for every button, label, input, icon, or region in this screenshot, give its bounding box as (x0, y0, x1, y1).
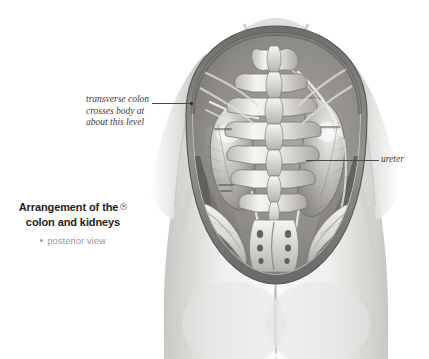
posterior-torso-kidneys-illustration (148, 6, 429, 359)
leader-line-transverse-colon (152, 103, 191, 104)
figure-subtitle-text: posterior view (47, 235, 106, 246)
annotation-transverse-colon: transverse colon crosses body at about t… (86, 94, 149, 129)
annotation-line-3: about this level (86, 117, 149, 129)
figure-title-line-1: Arrangement of the (8, 200, 138, 215)
anatomy-figure: transverse colon crosses body at about t… (0, 0, 429, 359)
figure-title-line-2: colon and kidneys (8, 215, 138, 230)
annotation-line-1: transverse colon (86, 94, 149, 106)
leader-line-ureter (306, 160, 379, 161)
figure-caption: Arrangement of the colon and kidneys pos… (8, 200, 138, 247)
figure-title-text-1: Arrangement of the (19, 201, 119, 213)
annotation-ureter: ureter (381, 154, 404, 166)
annotation-line-2: crosses body at (86, 106, 149, 118)
figure-subtitle: posterior view (8, 235, 138, 247)
figure-title: Arrangement of the colon and kidneys (8, 200, 138, 230)
rotate-view-icon[interactable] (120, 203, 127, 210)
annotation-ureter-label: ureter (381, 154, 404, 166)
bullet-icon (40, 239, 43, 242)
